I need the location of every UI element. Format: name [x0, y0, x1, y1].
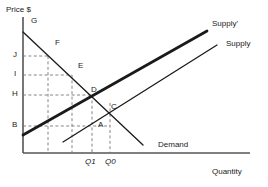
price-tick-I: I [14, 70, 16, 78]
point-label-C: C [111, 103, 117, 111]
supply-demand-figure: Price $ Quantity J I H B Q1 Q0 G F E D C… [0, 0, 268, 187]
supply-shifted-curve-label: Supply' [212, 20, 238, 28]
price-tick-B: B [12, 121, 17, 129]
curves-group [23, 31, 217, 145]
quantity-tick-Q1: Q1 [85, 158, 96, 166]
chart-canvas [0, 0, 268, 187]
y-axis-title: Price $ [6, 6, 31, 14]
demand-curve-label: Demand [158, 141, 188, 149]
point-label-A: A [98, 121, 103, 129]
demand-curve [23, 32, 143, 145]
point-label-F: F [55, 39, 60, 47]
point-label-G: G [31, 17, 37, 25]
point-label-D: D [91, 86, 97, 94]
price-tick-H: H [12, 90, 18, 98]
x-axis-title: Quantity [212, 168, 242, 176]
price-tick-J: J [13, 51, 17, 59]
supply-original-curve-label: Supply [226, 40, 250, 48]
quantity-tick-Q0: Q0 [105, 158, 116, 166]
point-label-E: E [78, 62, 83, 70]
supply-original-curve [63, 45, 217, 142]
